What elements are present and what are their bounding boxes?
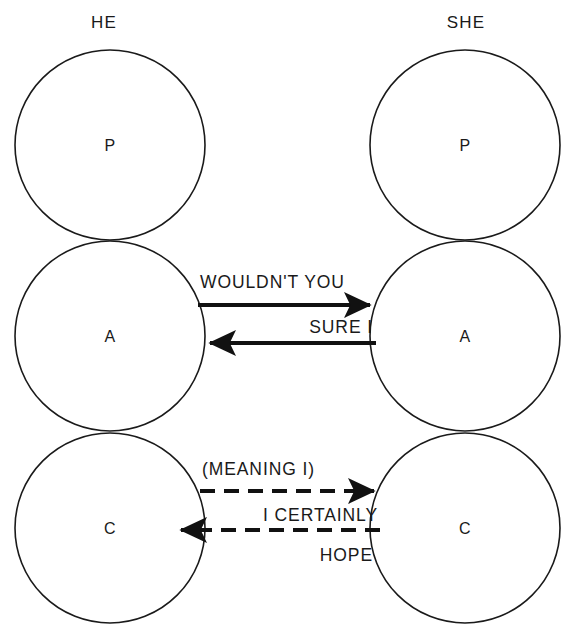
ego-state-label-she-child: C xyxy=(459,520,471,537)
transaction-label-wouldnt-you: WOULDN'T YOU xyxy=(200,272,345,292)
person-header-she: SHE xyxy=(447,13,486,32)
ego-state-label-she-adult: A xyxy=(459,328,470,345)
ego-state-label-he-parent: P xyxy=(104,137,115,154)
transaction-label-i-certainly: I CERTAINLY xyxy=(263,505,378,525)
transaction-group-child: (MEANING I) I CERTAINLY HOPE xyxy=(181,459,380,565)
transaction-group-adult: WOULDN'T YOU SURE I xyxy=(198,272,376,343)
transaction-label-hope: HOPE xyxy=(320,545,373,565)
person-column-she: SHE P A C xyxy=(370,13,560,623)
transactional-analysis-diagram: HE P A C SHE P A C WOULDN'T YOU SURE I xyxy=(0,0,571,631)
person-column-he: HE P A C xyxy=(15,13,205,623)
diagram-canvas: HE P A C SHE P A C WOULDN'T YOU SURE I xyxy=(0,0,571,631)
transaction-label-sure-i: SURE I xyxy=(309,317,373,337)
person-header-he: HE xyxy=(91,13,117,32)
ego-state-label-she-parent: P xyxy=(459,137,470,154)
ego-state-label-he-child: C xyxy=(104,520,116,537)
ego-state-label-he-adult: A xyxy=(104,328,115,345)
transaction-label-meaning-i: (MEANING I) xyxy=(202,459,315,479)
